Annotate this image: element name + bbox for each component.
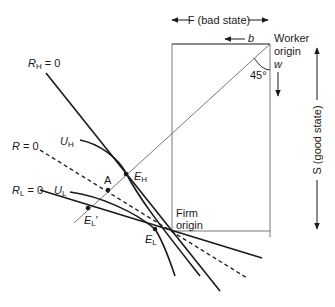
worker-origin-label: Worker origin: [274, 32, 312, 57]
firm-origin-label: Firm origin: [176, 207, 203, 231]
point-el-prime-label: EL′: [84, 214, 98, 228]
point-eh: [124, 172, 129, 177]
b-label: b: [248, 32, 254, 44]
s-axis-label: S (good state): [311, 105, 323, 174]
s-axis: S (good state): [311, 48, 323, 229]
r-zero-line: [40, 150, 247, 278]
insurance-diagram: F (bad state) 45° b w Worker origin S (g…: [0, 0, 335, 307]
ul-label: UL: [54, 184, 67, 198]
point-a-label: A: [104, 174, 112, 186]
point-a: [106, 188, 111, 193]
rh-zero-label: RH = 0: [28, 57, 60, 71]
r-zero-label: R = 0: [12, 140, 39, 152]
f-axis: F (bad state): [172, 14, 268, 26]
rh-zero-line: [46, 73, 220, 291]
uh-label: UH: [60, 135, 74, 149]
point-el: [153, 227, 158, 232]
point-el-prime: [86, 206, 91, 211]
rl-zero-label: RL = 0: [12, 184, 43, 198]
point-eh-label: EH: [134, 170, 147, 184]
rl-zero-line: [40, 190, 262, 258]
point-el-label: EL: [145, 233, 157, 247]
angle-label: 45°: [250, 69, 267, 81]
f-axis-label: F (bad state): [188, 14, 250, 26]
w-label: w: [274, 58, 283, 70]
